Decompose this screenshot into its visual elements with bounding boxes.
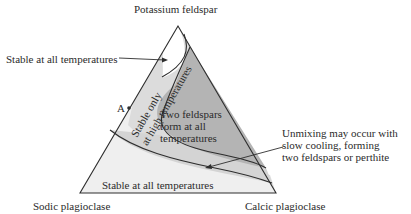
plag-stable-label: Stable at all temperatures [102, 179, 213, 191]
feldspar-ternary-diagram: Stable only at high temperatures Potassi… [0, 0, 411, 214]
k-stable-label: Stable at all temperatures [6, 53, 117, 65]
vertex-label-top: Potassium feldspar [134, 3, 217, 15]
vertex-label-bottom-left: Sodic plagioclase [33, 200, 110, 212]
vertex-label-bottom-right: Calcic plagioclase [245, 200, 325, 212]
point-a-label: A [117, 102, 125, 114]
point-a-marker [127, 106, 131, 110]
two-feldspars-label: Two feldspars form at all temperatures [160, 108, 240, 144]
unmixing-label: Unmixing may occur with slow cooling, fo… [282, 127, 411, 163]
